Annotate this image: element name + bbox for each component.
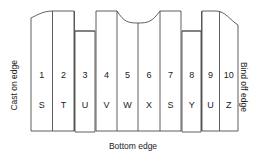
diagram-canvas: 1 2 3 4 5 6 7 8 9 10 S T U V W X S Y U Z… — [0, 0, 266, 161]
column-number-3: 3 — [75, 71, 95, 80]
schematic-outline — [0, 0, 266, 161]
column-number-10: 10 — [220, 71, 239, 80]
column-letter-3: U — [75, 101, 95, 110]
column-number-2: 2 — [53, 71, 75, 80]
column-number-6: 6 — [138, 71, 160, 80]
column-number-7: 7 — [160, 71, 181, 80]
bottom-edge-label: Bottom edge — [0, 142, 266, 151]
column-number-9: 9 — [202, 71, 220, 80]
column-number-5: 5 — [117, 71, 138, 80]
column-letter-6: X — [138, 101, 160, 110]
column-letter-2: T — [53, 101, 75, 110]
column-letter-1: S — [31, 101, 53, 110]
panel-outline-three — [75, 31, 95, 132]
column-letter-10: Z — [220, 101, 239, 110]
bind-off-edge-label: Bind off edge — [240, 62, 249, 112]
column-letter-7: S — [160, 101, 181, 110]
column-number-1: 1 — [31, 71, 53, 80]
cast-on-edge-label: Cast on edge — [10, 60, 19, 111]
column-letter-4: V — [96, 101, 117, 110]
column-letter-8: Y — [182, 101, 202, 110]
column-letter-9: U — [202, 101, 220, 110]
column-letter-5: W — [117, 101, 138, 110]
panel-outline-eight — [182, 31, 201, 132]
column-number-8: 8 — [182, 71, 202, 80]
column-number-4: 4 — [96, 71, 117, 80]
